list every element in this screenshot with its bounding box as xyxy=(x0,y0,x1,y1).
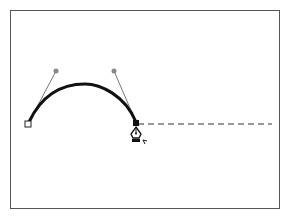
bezier-curve[interactable] xyxy=(29,84,136,122)
bezier-drawing xyxy=(0,0,291,217)
handle-point-1[interactable] xyxy=(54,69,59,74)
handle-point-2[interactable] xyxy=(112,69,117,74)
end-anchor-point[interactable] xyxy=(133,120,139,126)
start-anchor-point[interactable] xyxy=(25,121,31,127)
pen-tool-cursor-icon xyxy=(131,127,147,144)
